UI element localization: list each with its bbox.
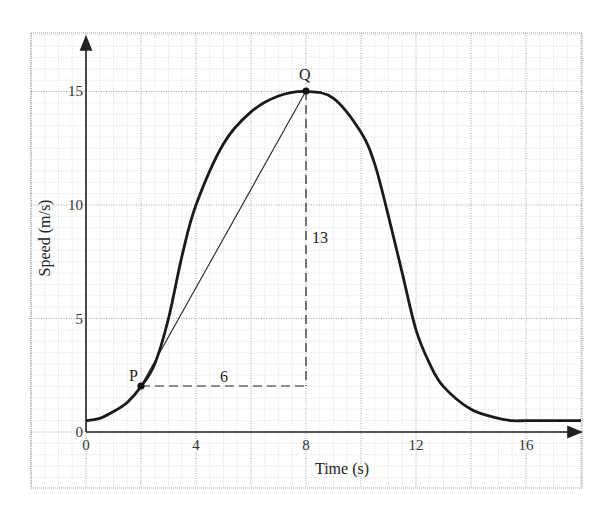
y-tick-labels: 0 5 10 15 (68, 83, 83, 440)
point-p-marker (137, 382, 144, 389)
x-tick-12: 12 (409, 437, 424, 453)
y-tick-5: 5 (76, 311, 84, 327)
x-axis-title: Time (s) (315, 460, 369, 478)
point-q-marker (302, 87, 309, 94)
y-tick-10: 10 (68, 197, 83, 213)
x-tick-16: 16 (519, 437, 535, 453)
y-tick-15: 15 (68, 83, 83, 99)
x-tick-0: 0 (82, 437, 90, 453)
run-label: 6 (220, 368, 228, 385)
point-p-label: P (129, 367, 138, 384)
y-axis-title: Speed (m/s) (36, 200, 54, 277)
speed-time-chart: 0 4 8 12 16 0 5 10 15 Time (s) Speed (m/… (0, 0, 609, 511)
point-q-label: Q (299, 66, 311, 83)
y-tick-0: 0 (76, 424, 84, 440)
x-tick-labels: 0 4 8 12 16 (82, 437, 534, 453)
rise-label: 13 (312, 229, 328, 246)
chord-pq (141, 91, 306, 386)
x-tick-8: 8 (302, 437, 310, 453)
x-tick-4: 4 (192, 437, 200, 453)
